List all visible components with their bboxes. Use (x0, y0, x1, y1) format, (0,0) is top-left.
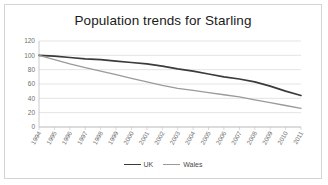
x-axis-tick-label: 2001 (137, 130, 150, 146)
legend-label-wales: Wales (183, 161, 202, 168)
x-axis-tick-label: 2003 (168, 130, 181, 146)
x-axis-tick-labels: 1994199519961997199819992000200120022003… (29, 130, 304, 146)
legend-swatch-uk (124, 164, 141, 165)
y-axis-tick-label: 60 (28, 80, 36, 87)
x-axis-tick-label: 2002 (153, 130, 166, 146)
plot-area: 020406080100120 199419951996199719981999… (5, 5, 323, 180)
line-chart-svg: 020406080100120 199419951996199719981999… (5, 5, 323, 180)
x-axis-tick-label: 2008 (245, 130, 258, 146)
x-axis-tick-label: 1994 (29, 130, 42, 146)
x-axis-tick-label: 2000 (122, 130, 135, 146)
y-axis-tick-label: 40 (28, 95, 36, 102)
x-axis-tick-label: 1998 (91, 130, 104, 146)
legend-item-wales[interactable]: Wales (163, 161, 202, 168)
x-axis-tick-label: 1996 (60, 130, 73, 146)
series-line-wales (39, 55, 301, 108)
x-axis-tick-label: 2006 (214, 130, 227, 146)
x-axis-tick-label: 2011 (292, 130, 305, 146)
chart-legend: UK Wales (5, 161, 321, 168)
x-axis-tick-label: 2010 (276, 130, 289, 146)
x-axis-tick-marks (39, 127, 301, 130)
chart-frame: Population trends for Starling 020406080… (4, 4, 322, 179)
y-axis-tick-labels: 020406080100120 (24, 37, 35, 130)
y-axis-tick-label: 80 (28, 66, 36, 73)
legend-label-uk: UK (144, 161, 154, 168)
x-axis-tick-label: 1995 (45, 130, 58, 146)
y-axis-tick-label: 120 (24, 37, 35, 44)
y-axis-tick-label: 20 (28, 109, 36, 116)
y-axis-tick-label: 0 (31, 123, 35, 130)
y-axis-tick-label: 100 (24, 52, 35, 59)
x-axis-tick-label: 2009 (260, 130, 273, 146)
x-axis-tick-label: 2007 (230, 130, 243, 146)
series-line-uk (39, 55, 301, 95)
x-axis-tick-label: 1997 (76, 130, 89, 146)
data-series-group (39, 55, 301, 108)
x-axis-tick-label: 2005 (199, 130, 212, 146)
x-axis-tick-label: 1999 (106, 130, 119, 146)
x-axis-tick-label: 2004 (183, 130, 196, 146)
legend-item-uk[interactable]: UK (124, 161, 154, 168)
legend-swatch-wales (163, 164, 180, 165)
